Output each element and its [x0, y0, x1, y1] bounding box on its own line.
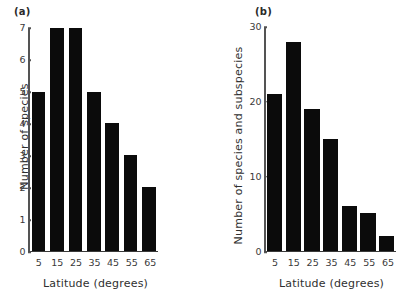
x-tick-label-a-25: 25 — [67, 258, 86, 268]
y-tick-label: 2 — [19, 183, 28, 193]
y-tick-a-5: 5 — [19, 87, 28, 97]
y-tick-mark — [28, 251, 31, 253]
panel-a-bars — [30, 28, 159, 251]
y-tick-label: 30 — [249, 22, 264, 32]
bar-slot — [48, 28, 66, 251]
bar-b-15 — [286, 42, 301, 251]
x-tick-label-b-5: 5 — [266, 258, 285, 268]
y-tick-a-2: 2 — [19, 183, 28, 193]
bar-slot — [121, 28, 139, 251]
bar-a-35 — [87, 92, 101, 251]
bar-slot — [303, 27, 322, 251]
bar-slot — [340, 27, 359, 251]
y-tick-mark — [28, 155, 31, 157]
bar-b-45 — [342, 206, 357, 251]
figure-container: (a) Number of species 01234567 515253545… — [0, 0, 402, 297]
panel-b: (b) Number of species and subspecies 010… — [201, 0, 402, 297]
bar-b-65 — [379, 236, 394, 251]
panel-b-x-ticks: 5152535455565 — [266, 258, 398, 268]
bar-b-5 — [267, 94, 282, 250]
bar-b-35 — [323, 139, 338, 251]
panel-b-tag: (b) — [255, 6, 272, 17]
y-tick-label: 0 — [19, 247, 28, 257]
y-tick-a-3: 3 — [19, 151, 28, 161]
bar-slot — [359, 27, 378, 251]
y-tick-mark — [28, 219, 31, 221]
y-tick-a-1: 1 — [19, 215, 28, 225]
panel-a-plot-area: 01234567 — [28, 28, 158, 252]
y-tick-mark — [264, 26, 267, 28]
panel-a-tag: (a) — [14, 6, 31, 17]
bar-b-25 — [304, 109, 319, 251]
y-tick-label: 6 — [19, 55, 28, 65]
y-tick-label: 4 — [19, 119, 28, 129]
x-tick-label-b-55: 55 — [360, 258, 379, 268]
y-tick-label: 20 — [249, 97, 264, 107]
y-tick-b-0: 0 — [255, 247, 264, 257]
y-tick-mark — [264, 176, 267, 178]
bar-slot — [321, 27, 340, 251]
y-tick-mark — [28, 187, 31, 189]
y-tick-mark — [28, 59, 31, 61]
x-tick-label-a-55: 55 — [122, 258, 141, 268]
panel-a-x-axis — [28, 251, 158, 253]
bar-b-55 — [360, 213, 375, 250]
panel-b-plot-area: 0102030 — [264, 27, 396, 252]
panel-a-x-axis-label: Latitude (degrees) — [18, 277, 173, 290]
bar-a-55 — [124, 155, 138, 250]
x-tick-label-b-65: 65 — [379, 258, 398, 268]
x-tick-label-a-45: 45 — [104, 258, 123, 268]
bar-a-65 — [142, 187, 156, 251]
bar-a-45 — [105, 123, 119, 250]
y-tick-label: 1 — [19, 215, 28, 225]
y-tick-label: 0 — [255, 247, 264, 257]
bar-slot — [284, 27, 303, 251]
bar-slot — [85, 28, 103, 251]
y-tick-a-7: 7 — [19, 23, 28, 33]
panel-b-y-axis-label: Number of species and subspecies — [232, 38, 245, 253]
y-tick-a-6: 6 — [19, 55, 28, 65]
x-tick-label-b-25: 25 — [303, 258, 322, 268]
x-tick-label-a-65: 65 — [141, 258, 160, 268]
bar-slot — [140, 28, 158, 251]
bar-slot — [30, 28, 48, 251]
panel-a-x-ticks: 5152535455565 — [30, 258, 160, 268]
bar-a-15 — [50, 28, 64, 251]
y-tick-a-0: 0 — [19, 247, 28, 257]
panel-b-bars — [266, 27, 397, 251]
bar-a-25 — [69, 28, 83, 251]
y-tick-label: 10 — [249, 172, 264, 182]
y-tick-label: 7 — [19, 23, 28, 33]
bar-slot — [266, 27, 285, 251]
y-tick-mark — [28, 123, 31, 125]
y-tick-b-20: 20 — [249, 97, 264, 107]
y-tick-mark — [264, 101, 267, 103]
x-tick-label-b-35: 35 — [322, 258, 341, 268]
x-tick-label-a-35: 35 — [85, 258, 104, 268]
panel-b-x-axis — [264, 251, 396, 253]
y-tick-label: 3 — [19, 151, 28, 161]
x-tick-label-b-15: 15 — [284, 258, 303, 268]
y-tick-b-30: 30 — [249, 22, 264, 32]
bar-slot — [103, 28, 121, 251]
bar-slot — [66, 28, 84, 251]
y-tick-label: 5 — [19, 87, 28, 97]
bar-a-5 — [32, 92, 46, 251]
panel-b-x-axis-label: Latitude (degrees) — [254, 277, 402, 290]
bar-slot — [377, 27, 396, 251]
x-tick-label-a-15: 15 — [48, 258, 67, 268]
panel-a: (a) Number of species 01234567 515253545… — [0, 0, 201, 297]
y-tick-mark — [28, 27, 31, 29]
y-tick-mark — [264, 251, 267, 253]
x-tick-label-b-45: 45 — [341, 258, 360, 268]
y-tick-a-4: 4 — [19, 119, 28, 129]
y-tick-mark — [28, 91, 31, 93]
x-tick-label-a-5: 5 — [30, 258, 49, 268]
y-tick-b-10: 10 — [249, 172, 264, 182]
